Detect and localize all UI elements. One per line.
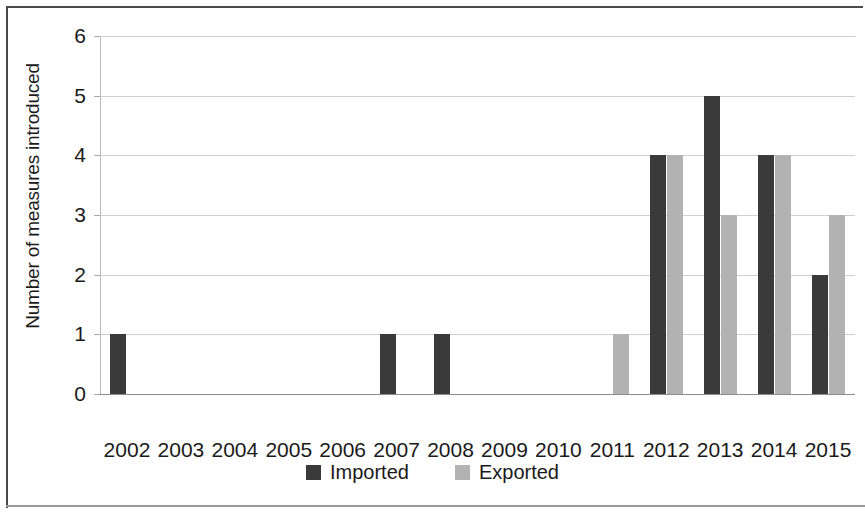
bar-group-bars (585, 36, 639, 394)
bar-group-2005 (262, 36, 316, 394)
bar-group-bars (693, 36, 747, 394)
x-tick-label-2007: 2007 (373, 438, 420, 462)
y-tick-label-4: 4 (74, 143, 86, 167)
bar-group-bars (478, 36, 532, 394)
figure-frame-top (6, 6, 863, 8)
bar-group-2008 (424, 36, 478, 394)
bar-group-bars (208, 36, 262, 394)
bar-group-2015 (801, 36, 855, 394)
exported-swatch-icon (455, 465, 470, 480)
bar-exported-2014 (775, 155, 791, 394)
x-tick-label-2012: 2012 (643, 438, 690, 462)
bar-group-2010 (531, 36, 585, 394)
y-tick-label-3: 3 (74, 203, 86, 227)
x-tick-label-2002: 2002 (104, 438, 151, 462)
bar-group-2007 (370, 36, 424, 394)
bar-group-2004 (208, 36, 262, 394)
x-tick-label-2011: 2011 (590, 438, 635, 462)
bar-exported-2012 (667, 155, 683, 394)
bar-group-bars (316, 36, 370, 394)
bar-imported-2012 (650, 155, 666, 394)
plot-area: 0123456200220032004200520062007200820092… (100, 36, 855, 394)
bar-group-bars (154, 36, 208, 394)
bar-imported-2015 (812, 275, 828, 394)
bar-exported-2011 (613, 334, 629, 394)
legend-label-imported: Imported (330, 462, 409, 482)
x-tick-label-2006: 2006 (319, 438, 366, 462)
y-tick-label-6: 6 (74, 24, 86, 48)
legend-entry-exported[interactable]: Exported (455, 462, 559, 482)
y-tick-label-2: 2 (74, 263, 86, 287)
x-tick-label-2004: 2004 (211, 438, 258, 462)
bar-group-bars (370, 36, 424, 394)
figure-frame-bottom (6, 505, 865, 507)
bar-group-bars (100, 36, 154, 394)
bar-group-bars (262, 36, 316, 394)
bar-group-2011 (585, 36, 639, 394)
x-tick-label-2014: 2014 (751, 438, 798, 462)
y-tick-label-5: 5 (74, 84, 86, 108)
bar-group-2002 (100, 36, 154, 394)
bar-group-2006 (316, 36, 370, 394)
bar-group-bars (424, 36, 478, 394)
y-tick-mark-0 (94, 394, 100, 395)
legend-entry-imported[interactable]: Imported (306, 462, 409, 482)
bar-group-bars (801, 36, 855, 394)
gridline-y-0 (100, 394, 855, 395)
bar-group-2003 (154, 36, 208, 394)
y-tick-label-0: 0 (74, 382, 86, 406)
bar-exported-2015 (829, 215, 845, 394)
x-tick-label-2015: 2015 (805, 438, 852, 462)
x-tick-label-2005: 2005 (265, 438, 312, 462)
bar-group-bars (531, 36, 585, 394)
bar-group-2014 (747, 36, 801, 394)
x-tick-label-2003: 2003 (158, 438, 205, 462)
bar-imported-2002 (110, 334, 126, 394)
y-axis-title: Number of measures introduced (18, 0, 48, 396)
bar-exported-2013 (721, 215, 737, 394)
bar-chart-figure: Number of measures introduced 0123456200… (0, 0, 865, 514)
bar-group-2012 (639, 36, 693, 394)
bar-imported-2007 (380, 334, 396, 394)
bar-group-bars (747, 36, 801, 394)
bar-imported-2013 (704, 96, 720, 394)
chart-legend: ImportedExported (0, 462, 865, 482)
bar-group-2013 (693, 36, 747, 394)
y-tick-label-1: 1 (74, 322, 86, 346)
x-tick-label-2009: 2009 (481, 438, 528, 462)
x-tick-label-2013: 2013 (697, 438, 744, 462)
bar-imported-2014 (758, 155, 774, 394)
legend-label-exported: Exported (479, 462, 559, 482)
x-tick-label-2010: 2010 (535, 438, 582, 462)
bar-imported-2008 (434, 334, 450, 394)
imported-swatch-icon (306, 465, 321, 480)
bar-group-bars (639, 36, 693, 394)
bar-group-2009 (478, 36, 532, 394)
x-tick-label-2008: 2008 (427, 438, 474, 462)
figure-frame-left (6, 6, 8, 508)
